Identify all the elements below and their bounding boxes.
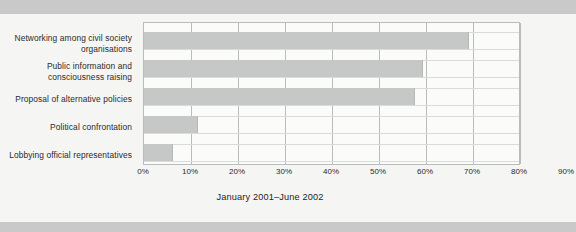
- bar-public-information[interactable]: [144, 60, 423, 77]
- bottom-rule: [0, 222, 576, 232]
- table-row: [144, 60, 519, 77]
- rowline: [144, 77, 519, 78]
- xtick-10: 10%: [170, 167, 210, 176]
- bar-networking[interactable]: [144, 32, 469, 49]
- table-row: [144, 32, 519, 49]
- page-body: Networking among civil society organisat…: [0, 14, 576, 222]
- bar-alternative-policies[interactable]: [144, 88, 415, 105]
- table-row: [144, 144, 519, 161]
- bar-political-confrontation[interactable]: [144, 116, 198, 133]
- table-row: [144, 88, 519, 105]
- gridline-80: [520, 23, 521, 164]
- category-label: Political confrontation: [0, 122, 132, 133]
- value-axis: 0% 10% 20% 30% 40% 50% 60% 70% 80% 90%: [0, 167, 576, 181]
- rowline: [144, 133, 519, 134]
- top-rule: [0, 0, 576, 14]
- category-label: Proposal of alternative policies: [0, 94, 132, 105]
- category-label: Lobbying official representatives: [0, 150, 132, 161]
- category-label: Networking among civil society organisat…: [0, 33, 132, 54]
- xtick-60: 60%: [405, 167, 445, 176]
- xtick-20: 20%: [217, 167, 257, 176]
- plot-area: [143, 22, 520, 165]
- rowline: [144, 105, 519, 106]
- category-label: Public information and consciousness rai…: [0, 61, 132, 82]
- chart-page: Networking among civil society organisat…: [0, 0, 576, 232]
- xtick-80: 80%: [499, 167, 539, 176]
- rowline: [144, 49, 519, 50]
- chart-caption: January 2001–June 2002: [0, 192, 540, 202]
- table-row: [144, 116, 519, 133]
- xtick-70: 70%: [452, 167, 492, 176]
- category-axis: Networking among civil society organisat…: [0, 22, 138, 165]
- xtick-30: 30%: [264, 167, 304, 176]
- xtick-90: 90%: [546, 167, 576, 176]
- bar-chart: Networking among civil society organisat…: [0, 14, 576, 174]
- xtick-40: 40%: [311, 167, 351, 176]
- bar-lobbying[interactable]: [144, 144, 173, 161]
- xtick-0: 0%: [123, 167, 163, 176]
- xtick-50: 50%: [358, 167, 398, 176]
- rowline: [144, 161, 519, 162]
